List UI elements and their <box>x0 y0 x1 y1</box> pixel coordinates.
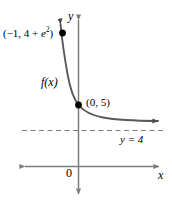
point-marker-upper <box>59 30 66 37</box>
label-axis-x: x <box>158 169 163 181</box>
label-axis-y: y <box>68 10 73 22</box>
label-upper-point-prefix: (−1, 4 + <box>3 27 41 39</box>
label-origin: 0 <box>66 167 72 179</box>
exponential-function-graph: (−1, 4 + e2) f(x) (0, 5) y = 4 0 x y <box>0 0 172 201</box>
label-asymptote: y = 4 <box>120 134 143 145</box>
point-marker-y-intercept <box>75 102 82 109</box>
label-y-intercept: (0, 5) <box>86 97 110 108</box>
label-function-name: f(x) <box>41 76 58 88</box>
label-upper-point-suffix: ) <box>50 27 54 39</box>
label-upper-point: (−1, 4 + e2) <box>3 27 53 39</box>
